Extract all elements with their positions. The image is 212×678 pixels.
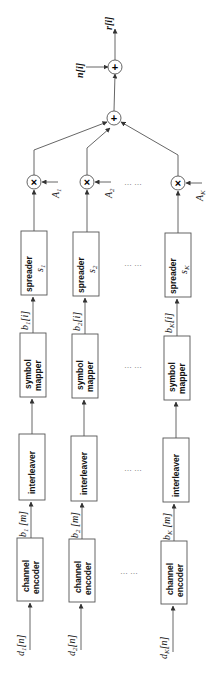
ellipsis-encoder: … … xyxy=(120,567,138,576)
encoder-label-Ka: channel xyxy=(165,563,175,595)
sum-to-noise-adder-arrow xyxy=(114,74,115,111)
ellipsis-mapper: … … xyxy=(124,361,142,370)
coded-label-2: b2 [m] xyxy=(69,512,82,538)
encoder-label-2b: encoder xyxy=(83,561,93,595)
symbol-label-K: bK[i] xyxy=(163,313,176,333)
branchK-to-adder xyxy=(121,122,178,176)
ellipsis-multiplier: … … xyxy=(124,178,142,187)
encoder-label-Kb: encoder xyxy=(175,563,185,597)
symbol-label-1: b1[i] xyxy=(19,311,32,330)
plus-icon: + xyxy=(111,112,117,124)
multiply-icon: × xyxy=(31,176,37,188)
mapper-label-1b: mapper xyxy=(33,360,43,391)
multiply-icon: × xyxy=(84,176,90,188)
spreader-label-2: spreader xyxy=(76,256,86,293)
ellipsis-interleaver: … … xyxy=(124,464,142,473)
coded-label-1: b1 [m] xyxy=(17,511,30,537)
mapper-label-2a: symbol xyxy=(75,360,85,390)
cdma-transmitter-diagram: + + r[i] n[i] × A1 spreader s1 b1[i] sym… xyxy=(0,0,212,678)
input-label-K: dK[n] xyxy=(158,636,171,659)
branch2-to-adder xyxy=(87,128,110,176)
branch-K: × AK spreader sK bK[i] symbol mapper int… xyxy=(158,176,207,659)
noise-label: n[i] xyxy=(74,62,85,78)
mapper-label-1a: symbol xyxy=(23,359,33,389)
input-label-2: d2[n] xyxy=(66,635,79,656)
mapper-label-Ka: symbol xyxy=(167,362,177,392)
interleaver-label-K: interleaver xyxy=(171,453,181,497)
output-label: r[i] xyxy=(103,16,114,30)
interleaver-label-2: interleaver xyxy=(79,451,89,495)
mapper-label-Kb: mapper xyxy=(177,363,187,394)
encoder-label-1b: encoder xyxy=(31,560,41,594)
interleaver-label-1: interleaver xyxy=(27,450,37,494)
mapper-label-2b: mapper xyxy=(85,361,95,392)
branch-1: × A1 spreader s1 b1[i] symbol mapper int… xyxy=(15,175,63,656)
amplitude-label-2: A2 xyxy=(103,188,116,199)
amplitude-label-1: A1 xyxy=(50,188,63,199)
branch1-to-adder xyxy=(34,122,107,176)
amplitude-label-K: AK xyxy=(194,190,207,202)
encoder-label-1a: channel xyxy=(21,560,31,592)
ellipsis-column: … … … … … … … … … … xyxy=(120,178,142,576)
spreader-label-1: spreader xyxy=(24,255,34,292)
plus-icon: + xyxy=(112,61,118,73)
coded-label-K: bK [m] xyxy=(161,513,174,540)
output-section: + + r[i] n[i] xyxy=(34,16,178,176)
branch-2: × A2 spreader s2 b2[i] symbol mapper int… xyxy=(66,175,116,656)
input-label-1: d1[n] xyxy=(15,635,28,656)
encoder-label-2a: channel xyxy=(73,561,83,593)
ellipsis-spreader: … … xyxy=(124,259,142,268)
spreader-label-K: spreader xyxy=(168,257,178,294)
symbol-label-2: b2[i] xyxy=(71,312,84,331)
multiply-icon: × xyxy=(175,177,181,189)
